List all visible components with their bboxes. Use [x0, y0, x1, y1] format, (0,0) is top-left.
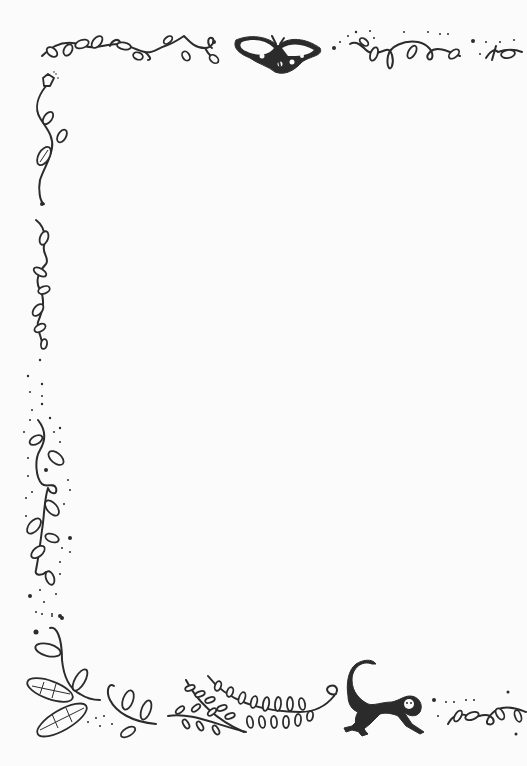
bottom-right-vine-icon — [432, 691, 526, 736]
moth-icon — [235, 36, 321, 73]
left-dotted-vine-icon — [23, 375, 72, 620]
bottom-left-leaf-sprig-icon — [24, 613, 113, 743]
fern-fronds-icon — [168, 676, 337, 736]
left-middle-vine-icon — [30, 220, 50, 361]
small-curled-sprig-icon — [108, 685, 156, 739]
monkey-icon — [344, 660, 424, 736]
top-left-vine-icon — [42, 34, 220, 65]
top-right-vine-icon — [332, 30, 522, 68]
left-flowering-vine-icon — [34, 71, 69, 206]
stationery-page — [0, 0, 527, 766]
jungle-border-illustration — [0, 0, 527, 766]
